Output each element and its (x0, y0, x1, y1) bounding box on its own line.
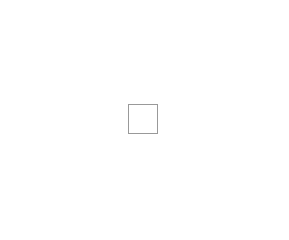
answer-box[interactable] (128, 104, 158, 134)
equation (118, 104, 158, 134)
